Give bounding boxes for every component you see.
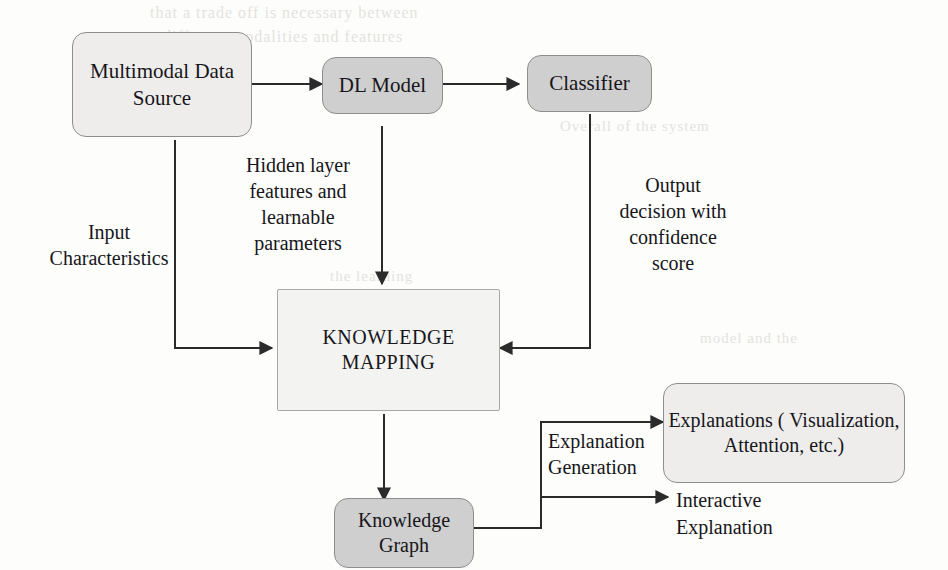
diagram-canvas: that a trade off is necessary between di… [0, 0, 948, 570]
node-knowledge-mapping[interactable]: KNOWLEDGE MAPPING [277, 289, 500, 411]
edge-label-hidden-layer-features: Hidden layer features and learnable para… [228, 152, 368, 256]
node-multimodal-data-source[interactable]: Multimodal Data Source [72, 32, 252, 137]
edge-label-output-decision: Output decision with confidence score [597, 172, 749, 276]
edge-label-explanation-generation: Explanation Generation [548, 428, 678, 480]
edge-label-input-characteristics: Input Characteristics [38, 219, 180, 271]
node-interactive-explanation: Interactive Explanation [676, 487, 896, 541]
edge-classifier-to-mapping [500, 114, 590, 348]
node-dl-model[interactable]: DL Model [322, 57, 443, 114]
node-knowledge-graph[interactable]: Knowledge Graph [334, 498, 474, 568]
node-classifier[interactable]: Classifier [527, 55, 652, 112]
node-explanations[interactable]: Explanations ( Visualization, Attention,… [663, 383, 905, 483]
